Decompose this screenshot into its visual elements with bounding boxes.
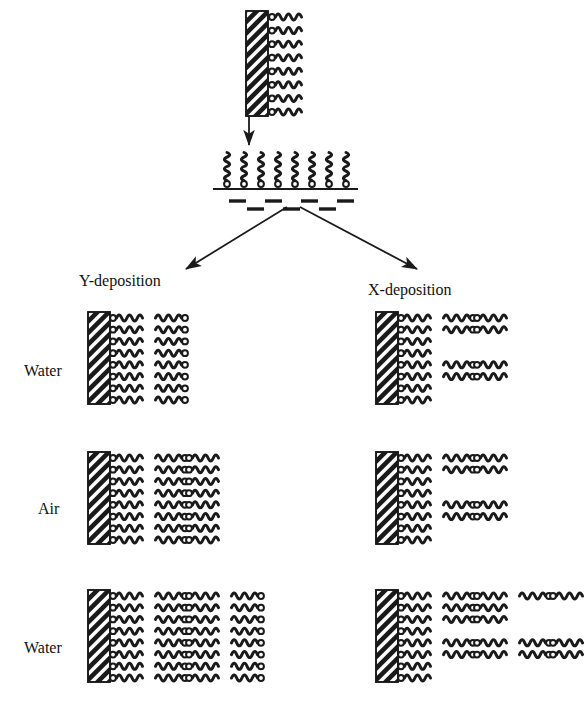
amphiphile-molecule <box>398 593 430 599</box>
amphiphile-molecule <box>550 652 582 658</box>
molecule-tail <box>481 652 507 658</box>
amphiphile-molecule <box>156 338 188 344</box>
x-deposition-substrate <box>374 392 400 579</box>
molecule-tail <box>481 593 507 599</box>
lb-deposition-diagram: Langmuir-Blodgett film deposition: Y-dep… <box>0 0 584 719</box>
amphiphile-molecule <box>156 640 188 646</box>
amphiphile-molecule <box>444 502 476 508</box>
substrate-hatch-stripe <box>374 553 400 579</box>
amphiphile-molecule <box>398 616 430 622</box>
x-deposition-monolayer-line <box>398 327 506 333</box>
molecule-tail <box>309 153 314 181</box>
amphiphile-molecule <box>474 605 506 611</box>
amphiphile-molecule <box>156 374 188 380</box>
molecule-tail <box>520 640 546 646</box>
amphiphile-molecule <box>444 593 476 599</box>
amphiphile-molecule-standing <box>224 153 230 187</box>
molecule-tail <box>117 616 143 622</box>
molecule-tail <box>444 640 470 646</box>
molecule-tail <box>557 593 583 599</box>
y-deposition-monolayer-line <box>110 385 188 391</box>
amphiphile-molecule <box>110 593 142 599</box>
amphiphile-molecule <box>156 397 188 403</box>
y-deposition-monolayer-line <box>110 374 188 380</box>
amphiphile-molecule <box>550 593 582 599</box>
amphiphile-molecule <box>398 652 430 658</box>
amphiphile-molecule <box>232 605 264 611</box>
amphiphile-molecule <box>269 14 301 20</box>
y-deposition-stack <box>86 392 219 579</box>
amphiphile-molecule <box>186 467 218 473</box>
molecule-tail <box>117 490 143 496</box>
amphiphile-molecule-standing <box>292 153 298 187</box>
x-deposition-stack <box>374 392 507 579</box>
molecule-tail <box>117 467 143 473</box>
amphiphile-molecule <box>474 374 506 380</box>
molecule-tail <box>481 374 507 380</box>
substrate-hatch-stripe <box>374 403 400 429</box>
amphiphile-molecule <box>398 663 430 669</box>
x-deposition-monolayer-line <box>398 663 430 669</box>
y-deposition-monolayer-line <box>110 593 264 599</box>
amphiphile-molecule <box>232 593 264 599</box>
molecule-tail <box>405 640 431 646</box>
y-deposition-monolayer-line <box>110 490 218 496</box>
amphiphile-molecule <box>444 605 476 611</box>
y-deposition-monolayer-line <box>110 514 218 520</box>
molecule-tail <box>156 338 182 344</box>
substrate-hatch-stripe <box>86 553 112 579</box>
molecule-tail <box>232 628 258 634</box>
substrate-hatch-stripe <box>86 403 112 429</box>
y-deposition-monolayer-line <box>110 502 218 508</box>
y-deposition-monolayer-line <box>110 315 188 321</box>
molecule-tail <box>481 315 507 321</box>
amphiphile-molecule <box>156 315 188 321</box>
molecule-tail <box>156 628 182 634</box>
molecule-tail <box>117 640 143 646</box>
amphiphile-molecule <box>474 514 506 520</box>
amphiphile-molecule <box>269 82 301 88</box>
molecule-tail <box>193 640 219 646</box>
molecule-tail <box>343 153 348 181</box>
molecule-tail <box>193 675 219 681</box>
row-water-2 <box>86 530 583 717</box>
molecule-tail <box>405 652 431 658</box>
amphiphile-molecule <box>398 362 430 368</box>
molecule-tail <box>156 605 182 611</box>
molecule-tail <box>117 675 143 681</box>
molecule-tail <box>405 525 431 531</box>
amphiphile-molecule <box>156 327 188 333</box>
y-deposition-monolayer-line <box>110 537 218 543</box>
molecule-tail <box>405 338 431 344</box>
substrate-hatch-stripe <box>244 0 270 1</box>
amphiphile-molecule <box>444 455 476 461</box>
x-deposition-monolayer-line <box>398 605 506 611</box>
amphiphile-molecule <box>110 502 142 508</box>
amphiphile-molecule <box>398 490 430 496</box>
amphiphile-molecule <box>232 628 264 634</box>
amphiphile-molecule <box>398 374 430 380</box>
molecule-tail <box>405 537 431 543</box>
amphiphile-molecule <box>474 640 506 646</box>
y-deposition-substrate <box>86 392 112 579</box>
molecule-tail <box>444 652 470 658</box>
molecule-tail <box>444 315 470 321</box>
branch-label-y-deposition: Y-deposition <box>79 272 161 290</box>
x-deposition-monolayer-line <box>398 675 430 681</box>
amphiphile-molecule <box>110 455 142 461</box>
molecule-tail <box>156 455 182 461</box>
amphiphile-molecule <box>232 675 264 681</box>
amphiphile-molecule <box>269 41 301 47</box>
molecule-tail <box>117 537 143 543</box>
amphiphile-molecule <box>398 525 430 531</box>
molecule-tail <box>232 663 258 669</box>
molecule-tail <box>405 478 431 484</box>
molecule-tail <box>405 616 431 622</box>
amphiphile-molecule <box>156 675 188 681</box>
amphiphile-molecule <box>550 640 582 646</box>
molecule-tail <box>292 153 297 181</box>
molecule-tail <box>156 478 182 484</box>
substrate-hatch-stripe <box>86 541 112 567</box>
amphiphile-molecule <box>474 593 506 599</box>
amphiphile-molecule <box>474 455 506 461</box>
